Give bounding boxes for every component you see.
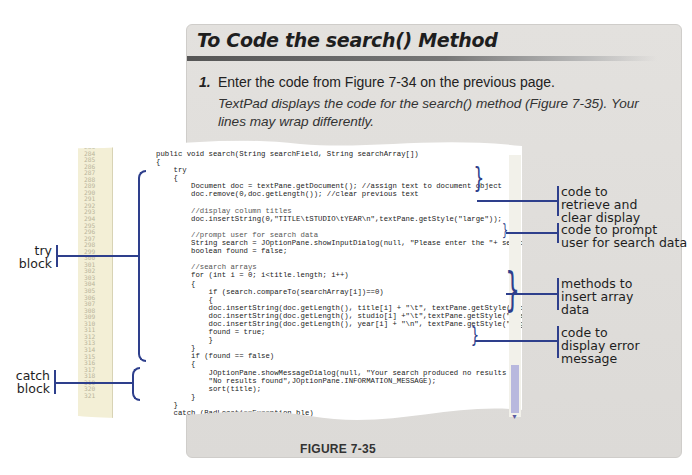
catch-label-line: block bbox=[10, 382, 50, 395]
figure-caption: FIGURE 7-35 bbox=[300, 442, 376, 456]
code-line: String search = JOptionPane.showInputDia… bbox=[156, 239, 559, 247]
step-instruction: Enter the code from Figure 7-34 on the p… bbox=[218, 74, 555, 90]
catch-block-label: catch block bbox=[10, 369, 50, 395]
callout-error: code to display error message bbox=[561, 326, 640, 365]
insert-connector bbox=[506, 293, 557, 295]
error-tick bbox=[557, 326, 559, 358]
try-block-brace bbox=[138, 170, 146, 362]
code-line: //prompt user for search data bbox=[156, 231, 559, 239]
catch-block-brace bbox=[132, 367, 140, 401]
code-line: { bbox=[156, 296, 559, 304]
try-label-line: block bbox=[18, 257, 52, 270]
scroll-down-arrow-icon[interactable]: ▼ bbox=[511, 413, 518, 420]
code-line: "No results found",JOptionPane.INFORMATI… bbox=[156, 377, 559, 385]
catch-block-tick bbox=[54, 370, 56, 394]
try-block-label: try block bbox=[18, 244, 52, 270]
code-line: Document doc = textPane.getDocument(); /… bbox=[156, 182, 559, 190]
prompt-brace: } bbox=[502, 220, 508, 239]
code-line: doc.remove(0,doc.getLength()); //clear p… bbox=[156, 190, 559, 198]
code-line: if (found == false) bbox=[156, 352, 559, 360]
code-line: doc.insertString(doc.getLength(), studio… bbox=[156, 312, 559, 320]
callout-line: data bbox=[561, 303, 633, 316]
callout-line: message bbox=[561, 352, 640, 365]
callout-insert: methods to insert array data bbox=[561, 277, 633, 316]
error-brace: } bbox=[471, 322, 479, 347]
prompt-tick bbox=[557, 223, 559, 243]
callout-retrieve: code to retrieve and clear display bbox=[561, 185, 640, 224]
code-line: public void search(String searchField, S… bbox=[156, 150, 559, 158]
code-line: doc.insertString(doc.getLength(), title[… bbox=[156, 304, 559, 312]
code-line: } bbox=[156, 344, 559, 352]
retrieve-brace: } bbox=[474, 162, 485, 195]
code-line: { bbox=[156, 174, 559, 182]
insert-brace: } bbox=[505, 262, 520, 316]
step-number: 1. bbox=[199, 74, 211, 90]
code-line: //search arrays bbox=[156, 263, 559, 271]
insert-tick bbox=[557, 278, 559, 310]
code-line: boolean found = false; bbox=[156, 247, 559, 255]
code-line: try bbox=[156, 166, 559, 174]
code-line: { bbox=[156, 280, 559, 288]
prompt-connector bbox=[506, 232, 557, 234]
code-line: JOptionPane.showMessageDialog(null, "You… bbox=[156, 369, 559, 377]
code-line: if (search.compareTo(searchArray[i])==0) bbox=[156, 288, 559, 296]
catch-block-connector bbox=[54, 382, 132, 384]
callout-line: user for search data bbox=[561, 236, 687, 249]
code-line: } bbox=[156, 401, 559, 409]
retrieve-tick bbox=[557, 186, 559, 216]
title-divider bbox=[187, 56, 657, 61]
code-line: { bbox=[156, 360, 559, 368]
code-line: sort(title); bbox=[156, 385, 559, 393]
line-numbers: 283 284 285 286 287 288 289 290 291 292 … bbox=[84, 144, 95, 399]
code-line: found = true; bbox=[156, 328, 559, 336]
panel-title: To Code the search() Method bbox=[197, 29, 498, 51]
code-line: doc.insertString(doc.getLength(), year[i… bbox=[156, 320, 559, 328]
try-block-tick bbox=[56, 245, 58, 267]
code-line: } bbox=[156, 393, 559, 401]
retrieve-connector bbox=[477, 200, 557, 202]
code-line: doc.insertString(0,"TITLE\tSTUDIO\tYEAR\… bbox=[156, 215, 559, 223]
code-line bbox=[156, 223, 559, 231]
code-block: public void search(String searchField, S… bbox=[156, 150, 559, 449]
code-line: //display column titles bbox=[156, 207, 559, 215]
code-line bbox=[156, 255, 559, 263]
error-connector bbox=[475, 340, 557, 342]
try-block-connector bbox=[56, 255, 140, 257]
code-line: for (int i = 0; i<title.length; i++) bbox=[156, 271, 559, 279]
callout-prompt: code to prompt user for search data bbox=[561, 223, 687, 249]
step-result: TextPad displays the code for the search… bbox=[218, 95, 658, 131]
code-line: { bbox=[156, 158, 559, 166]
scroll-thumb[interactable] bbox=[511, 365, 519, 413]
